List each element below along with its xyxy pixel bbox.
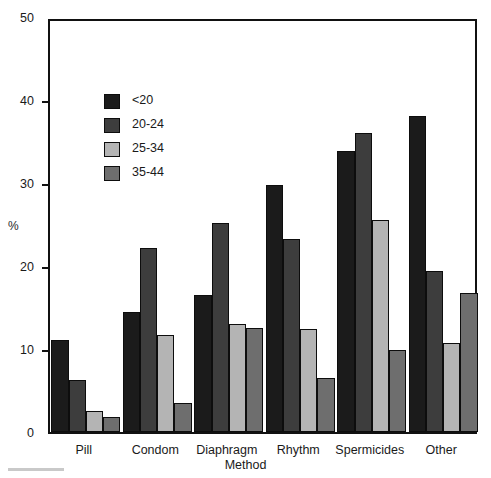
legend-item: 20-24 [104,116,214,140]
bar [229,324,246,432]
bar [426,271,443,432]
y-tick-label: 30 [8,178,34,191]
legend-label: <20 [132,93,153,107]
bar [86,411,103,432]
bar [300,329,317,432]
bar [389,350,406,432]
bar [140,248,157,432]
legend-label: 35-44 [132,165,164,179]
legend-label: 25-34 [132,141,164,155]
legend-swatch [104,94,120,109]
bar [460,293,477,432]
legend: <2020-2425-3435-44 [104,92,214,188]
bar [372,220,389,432]
bar [443,343,460,432]
legend-swatch [104,166,120,181]
legend-item: <20 [104,92,214,116]
legend-swatch [104,142,120,157]
bar [123,312,140,432]
legend-item: 25-34 [104,140,214,164]
y-tick-label: 50 [8,12,34,25]
x-axis-title: Method [0,458,491,472]
plot-area [48,19,477,434]
y-tick-label: 0 [8,427,34,440]
y-tick-label: 20 [8,261,34,274]
bar [51,340,68,432]
bar [174,403,191,432]
y-axis-title: % [8,219,19,233]
bar [103,417,120,432]
bar [317,378,334,432]
bar [69,380,86,432]
bar [409,116,426,432]
y-tick-label: 40 [8,95,34,108]
bar [194,295,211,432]
legend-item: 35-44 [104,164,214,188]
bar-chart: % 01020304050 <2020-2425-3435-44 PillCon… [0,0,491,478]
bar [266,185,283,432]
bar [246,328,263,432]
legend-swatch [104,118,120,133]
bar [283,239,300,432]
y-tick-label: 10 [8,344,34,357]
bar [157,335,174,432]
bar [212,223,229,432]
bar [337,151,354,432]
bar [355,133,372,432]
legend-label: 20-24 [132,117,164,131]
scan-artifact-line [8,468,64,471]
x-tick-label: Other [381,444,491,457]
